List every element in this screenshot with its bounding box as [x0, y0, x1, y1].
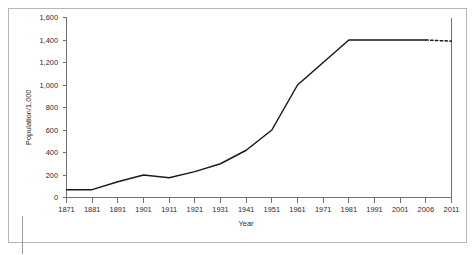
- x-axis-title: Year: [239, 219, 254, 228]
- y-axis-tick-labels: 0 200 400 600 800 1,000 1,200 1,400 1,60…: [40, 13, 59, 202]
- x-tick-label: 1931: [212, 205, 228, 214]
- x-tick-label: 1951: [264, 205, 280, 214]
- x-tick-label: 2011: [444, 205, 460, 214]
- y-tick-label: 800: [46, 103, 58, 112]
- y-tick-label: 1,400: [40, 36, 59, 45]
- x-tick-label: 1891: [110, 205, 126, 214]
- y-axis-ticks: [63, 18, 67, 198]
- x-tick-label: 1941: [238, 205, 254, 214]
- chart-page: 0 200 400 600 800 1,000 1,200 1,400 1,60…: [0, 0, 472, 255]
- x-tick-label: 2006: [418, 205, 434, 214]
- population-series-dashed: [426, 40, 452, 41]
- x-tick-label: 1871: [58, 205, 74, 214]
- x-tick-label: 1911: [161, 205, 177, 214]
- y-tick-label: 1,200: [40, 58, 59, 67]
- y-tick-label: 400: [46, 148, 58, 157]
- x-tick-label: 1961: [289, 205, 305, 214]
- x-tick-label: 1971: [315, 205, 331, 214]
- x-tick-label: 1981: [341, 205, 357, 214]
- y-tick-label: 0: [54, 193, 58, 202]
- x-tick-label: 1901: [135, 205, 151, 214]
- y-axis-title: Population/1,000: [24, 90, 33, 145]
- x-tick-label: 1921: [187, 205, 203, 214]
- y-tick-label: 200: [46, 171, 58, 180]
- x-axis-tick-labels: 1871 1881 1891 1901 1911 1921 1931 1941 …: [58, 205, 459, 214]
- x-axis-ticks: [67, 198, 452, 203]
- population-series-solid: [67, 40, 426, 190]
- y-tick-label: 1,000: [40, 81, 59, 90]
- x-tick-label: 1881: [84, 205, 100, 214]
- x-tick-label: 2001: [392, 205, 408, 214]
- y-tick-label: 1,600: [40, 13, 59, 22]
- y-tick-label: 600: [46, 126, 58, 135]
- x-tick-label: 1991: [366, 205, 382, 214]
- population-line-chart: 0 200 400 600 800 1,000 1,200 1,400 1,60…: [0, 0, 472, 255]
